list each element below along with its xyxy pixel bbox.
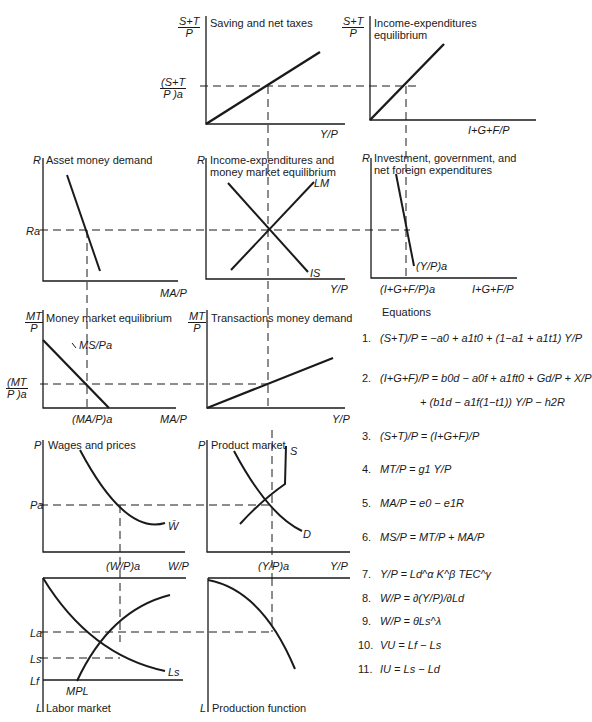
- eq-number: 7.: [362, 568, 371, 580]
- equation-10: VU = Lf − Ls: [380, 639, 441, 651]
- panel-title-islm-1: Income-expenditures and: [210, 154, 334, 166]
- tick-mt-a: (MTP )a: [6, 377, 28, 400]
- axis-label-mm-y: MTP: [25, 311, 43, 334]
- panel-title-ie-1: Income-expenditures: [374, 17, 477, 29]
- axis-label-pf-y: L: [200, 702, 206, 714]
- axes-pf: [208, 578, 350, 712]
- tick-inv-a: (I+G+F/P)a: [380, 283, 435, 295]
- curve-lm: [231, 182, 314, 270]
- panel-title-inv-2: net foreign expenditures: [374, 164, 492, 176]
- tick-lf: Lf: [30, 675, 39, 687]
- axis-label-labor-y: L: [36, 702, 42, 714]
- axes-pm: [207, 440, 350, 552]
- equation-7: Y/P = Ld^α K^β TEC^γ: [380, 568, 491, 580]
- eq-number: 1.: [362, 332, 371, 344]
- curve-ls-down: [43, 578, 165, 671]
- axis-label-mm-x: MA/P: [160, 413, 187, 425]
- axis-label-wp-y: P: [34, 439, 41, 451]
- panel-title-saving: Saving and net taxes: [210, 17, 313, 29]
- equation-9: W/P = θLs^λ: [380, 615, 441, 627]
- eq-number: 8.: [362, 592, 371, 604]
- axes-tmd: [207, 310, 345, 408]
- axis-label-inv-x: I+G+F/P: [472, 283, 514, 295]
- curve-wbar: [80, 450, 165, 524]
- axis-label-ie-y: S+TP: [342, 16, 364, 39]
- curve-s: [240, 446, 286, 524]
- eq-number: 9.: [362, 615, 371, 627]
- panel-title-labor: Labor market: [46, 702, 111, 714]
- tick-la: La: [30, 627, 42, 639]
- curve-label-is: IS: [310, 267, 320, 279]
- eq-number: 5.: [362, 497, 371, 509]
- panel-title-inv-1: Investment, government, and: [374, 152, 516, 164]
- equation-3: (S+T)/P = (I+G+F)/P: [380, 430, 479, 442]
- tick-ma-a: (MA/P)a: [72, 413, 112, 425]
- curve-label-ls: Ls: [168, 666, 180, 678]
- axis-label-saving-y: S+TP: [178, 16, 200, 39]
- axis-label-wp-x: W/P: [168, 560, 189, 572]
- panel-title-wp: Wages and prices: [48, 439, 136, 451]
- equation-4: MT/P = g1 Y/P: [380, 463, 451, 475]
- curve-label-d: D: [303, 528, 311, 540]
- curve-ie: [370, 44, 444, 120]
- tick-saving-a: (S+TP )a: [160, 77, 186, 100]
- equation-5: MA/P = e0 − e1R: [380, 497, 464, 509]
- axes-asset: [43, 158, 178, 281]
- panel-title-tmd: Transactions money demand: [211, 312, 352, 324]
- equations-title: Equations: [382, 306, 431, 318]
- curve-label-lm: LM: [314, 177, 329, 189]
- curve-asset: [67, 175, 100, 271]
- eq-number: 10.: [358, 639, 373, 651]
- tick-ls: Ls: [30, 653, 42, 665]
- axis-label-tmd-x: Y/P: [332, 413, 350, 425]
- axis-label-islm-y: R: [197, 154, 205, 166]
- axis-label-pm-y: P: [198, 439, 205, 451]
- eq-number: 2.: [362, 372, 371, 384]
- axis-label-saving-x: Y/P: [320, 128, 338, 140]
- curve-label-s: S: [290, 445, 297, 457]
- equation-8: W/P = ∂(Y/P)/∂Ld: [380, 592, 464, 604]
- equation-1: (S+T)/P = −a0 + a1t0 + (1−a1 + a1t1) Y/P: [380, 332, 582, 344]
- equation-2-cont: + (b1d − a1f(1−t1)) Y/P − h2R: [420, 396, 565, 408]
- eq-number: 6.: [362, 531, 371, 543]
- axis-label-pm-x: Y/P: [330, 560, 348, 572]
- axis-label-islm-x: Y/P: [330, 283, 348, 295]
- tick-ra: Ra: [26, 225, 40, 237]
- axis-label-asset-x: MA/P: [160, 287, 187, 299]
- axes-saving: [206, 16, 345, 124]
- curve-label-inv: (Y/P)a: [416, 260, 447, 272]
- curve-tmd: [207, 358, 333, 408]
- axis-label-tmd-y: MTP: [188, 311, 206, 334]
- equation-11: IU = Ls − Ld: [380, 663, 440, 675]
- panel-title-pm: Product market: [211, 439, 286, 451]
- curve-pf: [208, 580, 295, 669]
- panel-title-ie-2: equilibrium: [374, 29, 427, 41]
- equation-6: MS/P = MT/P + MA/P: [380, 531, 484, 543]
- panel-title-asset: Asset money demand: [46, 154, 152, 166]
- axis-label-asset-y: R: [33, 154, 41, 166]
- eq-number: 11.: [358, 663, 372, 675]
- eq-number: 3.: [362, 430, 371, 442]
- curve-label-mpl: MPL: [66, 685, 89, 697]
- panel-title-pf: Production function: [212, 702, 306, 714]
- eq-number: 4.: [362, 463, 371, 475]
- axes-wp: [43, 440, 185, 552]
- axis-label-ie-x: I+G+F/P: [468, 124, 510, 136]
- curve-label-wbar: W̄: [168, 520, 178, 532]
- curve-inv: [396, 174, 414, 266]
- curve-label-ms: MS/Pa: [79, 339, 112, 351]
- panel-title-mm: Money market equilibrium: [46, 312, 172, 324]
- axis-label-inv-y: R: [362, 152, 370, 164]
- tick-pa: Pa: [30, 499, 43, 511]
- axes-labor: [43, 578, 186, 712]
- equation-2: (I+G+F)/P = b0d − a0f + a1ft0 + Gd/P + X…: [380, 372, 592, 384]
- tick-wp-a: (W/P)a: [106, 560, 140, 572]
- curve-saving: [206, 52, 320, 124]
- tick-yp-a: (Y/P)a: [258, 560, 289, 572]
